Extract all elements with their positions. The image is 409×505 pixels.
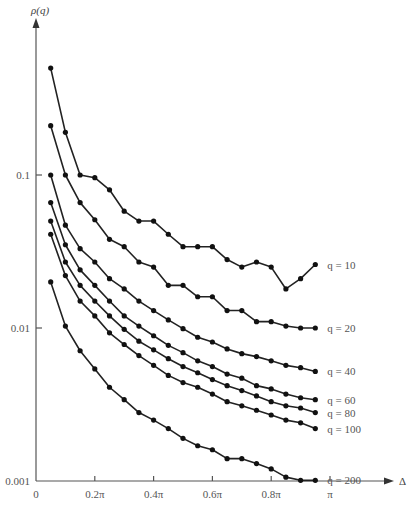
- data-point: [180, 326, 185, 331]
- data-point: [225, 456, 230, 461]
- data-point: [269, 358, 274, 363]
- chart: ρ(q) Δ 00.2π0.4π0.6π0.8ππ0.10.010.001 q …: [0, 0, 409, 505]
- data-point: [225, 371, 230, 376]
- series-label: q = 10: [327, 259, 356, 271]
- y-axis-arrow-icon: [33, 18, 40, 28]
- data-point: [122, 327, 127, 332]
- data-point: [151, 347, 156, 352]
- data-point: [107, 298, 112, 303]
- data-point: [78, 298, 83, 303]
- data-point: [107, 237, 112, 242]
- data-point: [180, 436, 185, 441]
- data-point: [195, 443, 200, 448]
- series-line: [51, 126, 316, 328]
- data-point: [283, 391, 288, 396]
- x-tick-label: 0.2π: [85, 488, 105, 500]
- data-point: [254, 461, 259, 466]
- data-point: [48, 232, 53, 237]
- series-q20: [48, 123, 318, 330]
- data-point: [210, 391, 215, 396]
- data-point: [283, 323, 288, 328]
- data-point: [180, 283, 185, 288]
- data-point: [254, 319, 259, 324]
- data-point: [122, 244, 127, 249]
- series-labels: q = 10q = 20q = 40q = 60q = 80q = 100q =…: [327, 259, 361, 487]
- y-tick-label: 0.1: [16, 169, 30, 181]
- data-point: [136, 218, 141, 223]
- data-point: [92, 313, 97, 318]
- ticks: 00.2π0.4π0.6π0.8ππ0.10.010.001: [5, 169, 333, 500]
- data-point: [78, 348, 83, 353]
- series-line: [51, 68, 316, 289]
- y-tick-label: 0.01: [11, 322, 30, 334]
- data-point: [63, 323, 68, 328]
- data-point: [122, 286, 127, 291]
- data-point: [210, 294, 215, 299]
- data-point: [298, 365, 303, 370]
- data-point: [151, 308, 156, 313]
- data-point: [195, 358, 200, 363]
- data-point: [225, 399, 230, 404]
- data-point: [225, 257, 230, 262]
- data-point: [107, 187, 112, 192]
- data-point: [210, 339, 215, 344]
- data-point: [63, 172, 68, 177]
- data-point: [239, 351, 244, 356]
- series-line: [51, 203, 316, 400]
- data-point: [298, 420, 303, 425]
- data-point: [78, 172, 83, 177]
- data-point: [225, 383, 230, 388]
- data-point: [195, 370, 200, 375]
- data-point: [151, 218, 156, 223]
- data-point: [166, 317, 171, 322]
- x-axis-arrow-icon: [384, 478, 394, 485]
- data-point: [166, 232, 171, 237]
- x-tick-label: π: [327, 488, 333, 500]
- data-point: [78, 283, 83, 288]
- data-point: [239, 403, 244, 408]
- data-point: [180, 364, 185, 369]
- data-point: [313, 478, 318, 483]
- data-point: [210, 244, 215, 249]
- data-point: [166, 426, 171, 431]
- data-point: [122, 209, 127, 214]
- y-axis-title: ρ(q): [30, 4, 49, 17]
- data-point: [48, 279, 53, 284]
- data-point: [313, 426, 318, 431]
- data-point: [63, 242, 68, 247]
- series-label: q = 20: [327, 322, 356, 334]
- data-point: [136, 259, 141, 264]
- data-point: [269, 399, 274, 404]
- data-point: [136, 410, 141, 415]
- data-point: [122, 397, 127, 402]
- data-point: [254, 259, 259, 264]
- data-point: [48, 200, 53, 205]
- data-point: [92, 259, 97, 264]
- data-point: [63, 259, 68, 264]
- data-point: [195, 244, 200, 249]
- data-point: [48, 123, 53, 128]
- data-point: [78, 246, 83, 251]
- data-point: [313, 369, 318, 374]
- data-point: [269, 265, 274, 270]
- data-point: [78, 200, 83, 205]
- data-point: [254, 354, 259, 359]
- data-point: [151, 265, 156, 270]
- data-point: [283, 475, 288, 480]
- data-point: [225, 308, 230, 313]
- series-label: q = 80: [327, 407, 356, 419]
- data-point: [107, 313, 112, 318]
- data-point: [136, 353, 141, 358]
- data-point: [298, 478, 303, 483]
- data-point: [283, 286, 288, 291]
- data-point: [195, 335, 200, 340]
- series-label: q = 60: [327, 394, 356, 406]
- data-point: [151, 363, 156, 368]
- data-point: [92, 298, 97, 303]
- data-point: [136, 323, 141, 328]
- data-point: [48, 172, 53, 177]
- data-point: [239, 265, 244, 270]
- series-q100: [48, 232, 318, 432]
- data-point: [78, 267, 83, 272]
- series-label: q = 100: [327, 423, 361, 435]
